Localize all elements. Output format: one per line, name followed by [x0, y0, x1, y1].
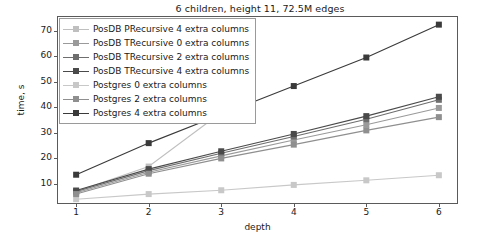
- y-axis-tick-label: 50: [26, 76, 52, 86]
- series-marker: [218, 148, 224, 154]
- x-axis-tick-mark: [366, 204, 367, 207]
- x-axis-tick-label: 2: [137, 207, 161, 217]
- series-line: [76, 117, 439, 194]
- legend-marker-icon: [73, 54, 79, 60]
- legend-item-label: PosDB TRecursive 4 extra columns: [93, 65, 249, 77]
- legend-item-label: Postgres 4 extra columns: [93, 107, 207, 119]
- series-marker: [146, 140, 152, 146]
- series-marker: [73, 172, 79, 178]
- legend-swatch-icon: [63, 65, 89, 77]
- x-axis-tick-label: 6: [427, 207, 451, 217]
- legend-item-label: PosDB TRecursive 0 extra columns: [93, 37, 249, 49]
- legend-item-label: PosDB TRecursive 2 extra columns: [93, 51, 249, 63]
- x-axis-tick-mark: [294, 204, 295, 207]
- legend-marker-icon: [73, 26, 79, 32]
- legend-item-label: PosDB PRecursive 4 extra columns: [93, 23, 249, 35]
- legend-marker-icon: [73, 68, 79, 74]
- chart-title: 6 children, height 11, 72.5M edges: [55, 3, 465, 14]
- series-marker: [291, 83, 297, 89]
- legend-item[interactable]: PosDB TRecursive 2 extra columns: [63, 50, 249, 64]
- y-axis-label: time, s: [16, 70, 26, 130]
- series-marker: [291, 131, 297, 137]
- series-marker: [363, 127, 369, 133]
- series-marker: [363, 113, 369, 119]
- x-axis-label: depth: [57, 222, 458, 232]
- legend-swatch-icon: [63, 37, 89, 49]
- legend-swatch-icon: [63, 79, 89, 91]
- y-axis-tick-label: 60: [26, 50, 52, 60]
- legend-item[interactable]: PosDB TRecursive 0 extra columns: [63, 36, 249, 50]
- legend-marker-icon: [73, 40, 79, 46]
- y-axis-tick-label: 70: [26, 25, 52, 35]
- chart-legend[interactable]: PosDB PRecursive 4 extra columnsPosDB TR…: [59, 18, 256, 124]
- series-marker: [436, 114, 442, 120]
- x-axis-tick-mark: [149, 204, 150, 207]
- series-marker: [146, 191, 152, 197]
- series-marker: [436, 172, 442, 178]
- x-axis-tick-label: 1: [64, 207, 88, 217]
- x-axis-tick-label: 3: [209, 207, 233, 217]
- y-axis-tick-label: 30: [26, 127, 52, 137]
- y-axis-tick-label: 40: [26, 101, 52, 111]
- legend-item[interactable]: PosDB TRecursive 4 extra columns: [63, 64, 249, 78]
- series-marker: [436, 94, 442, 100]
- legend-swatch-icon: [63, 51, 89, 63]
- x-axis-tick-label: 5: [354, 207, 378, 217]
- series-marker: [436, 22, 442, 28]
- x-axis-tick-label: 4: [282, 207, 306, 217]
- y-axis-tick-label: 10: [26, 178, 52, 188]
- series-marker: [291, 142, 297, 148]
- series-marker: [436, 105, 442, 111]
- x-axis-tick-mark: [221, 204, 222, 207]
- legend-item-label: Postgres 0 extra columns: [93, 79, 207, 91]
- series-marker: [218, 187, 224, 193]
- legend-item[interactable]: Postgres 0 extra columns: [63, 78, 249, 92]
- legend-item-label: Postgres 2 extra columns: [93, 93, 207, 105]
- legend-swatch-icon: [63, 107, 89, 119]
- legend-swatch-icon: [63, 93, 89, 105]
- legend-marker-icon: [73, 110, 79, 116]
- series-line: [76, 113, 221, 192]
- legend-item[interactable]: PosDB PRecursive 4 extra columns: [63, 22, 249, 36]
- legend-item[interactable]: Postgres 4 extra columns: [63, 106, 249, 120]
- series-marker: [363, 122, 369, 128]
- legend-swatch-icon: [63, 23, 89, 35]
- y-axis-tick-label: 20: [26, 152, 52, 162]
- series-marker: [363, 55, 369, 61]
- legend-marker-icon: [73, 96, 79, 102]
- figure-canvas: 6 children, height 11, 72.5M edges time,…: [0, 0, 477, 242]
- x-axis-tick-mark: [439, 204, 440, 207]
- series-marker: [146, 171, 152, 177]
- x-axis-tick-mark: [76, 204, 77, 207]
- series-marker: [73, 191, 79, 197]
- legend-item[interactable]: Postgres 2 extra columns: [63, 92, 249, 106]
- series-marker: [291, 182, 297, 188]
- legend-marker-icon: [73, 82, 79, 88]
- series-marker: [218, 155, 224, 161]
- series-marker: [363, 177, 369, 183]
